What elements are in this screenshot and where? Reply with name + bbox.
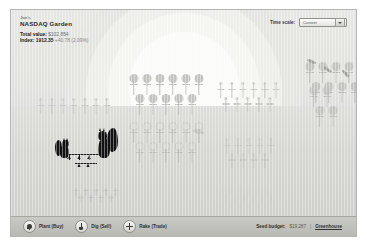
plant-shoot[interactable]: [226, 203, 235, 213]
plant-outline[interactable]: [134, 142, 147, 164]
plant-mature[interactable]: [323, 82, 336, 104]
header: Joe's NASDAQ Garden Total value: $102,85…: [11, 10, 356, 50]
plant-mature[interactable]: [314, 106, 327, 128]
squirrel-left: [55, 138, 73, 158]
plant-mature[interactable]: [349, 82, 357, 104]
plant-shoot[interactable]: [267, 194, 276, 204]
plant-mature[interactable]: [147, 94, 160, 116]
plant-outline[interactable]: [186, 142, 199, 164]
plant-mature[interactable]: [134, 94, 147, 116]
plant-arms: [332, 72, 340, 73]
dig-sell-button[interactable]: Dig (Sell): [75, 220, 111, 233]
plant-arms: [188, 104, 196, 105]
plant-arms: [103, 190, 108, 191]
squirrel-ear-right: [103, 128, 105, 131]
plant-shoot[interactable]: [244, 203, 253, 213]
plant-stem: [220, 85, 221, 98]
plant-mature[interactable]: [186, 94, 199, 116]
rake-icon: [123, 220, 136, 233]
plant-outline[interactable]: [160, 142, 173, 164]
plant-arms: [162, 152, 170, 153]
plant-mature[interactable]: [160, 94, 173, 116]
plant-arms: [261, 89, 268, 90]
squirrel-right: [95, 128, 119, 158]
plant-seedling[interactable]: [221, 97, 232, 114]
plant-arms: [162, 104, 170, 105]
plant-stem: [259, 141, 260, 154]
plant-seedling[interactable]: [243, 97, 254, 114]
plant-arms: [130, 132, 138, 133]
plant-seedling[interactable]: [265, 97, 276, 114]
plant-stem: [237, 141, 238, 154]
plant-stem: [62, 101, 63, 114]
cluster-bottom-sprouts[interactable]: [71, 188, 121, 204]
plant-sprout[interactable]: [76, 195, 86, 204]
chevron-down-icon[interactable]: [335, 18, 345, 27]
plant-arms: [182, 132, 190, 133]
plant-arms: [239, 89, 246, 90]
portfolio-stats: Total value: $102,854 Index: 1912.35 +40…: [20, 32, 348, 44]
seed-budget-value: $19,287: [289, 224, 306, 229]
bird-wing-right: [197, 131, 204, 134]
rake-trade-button[interactable]: Rake (Trade): [123, 220, 167, 233]
plant-arms: [316, 116, 324, 117]
plant-mature[interactable]: [327, 106, 340, 128]
plant-stem: [226, 141, 227, 154]
trellis-cap-5: [86, 164, 90, 167]
plant-arms: [228, 89, 235, 90]
plant-seedling[interactable]: [227, 153, 238, 170]
plant-row: [35, 98, 112, 115]
cluster-right-seedlings[interactable]: [215, 82, 281, 114]
plant-arms: [93, 190, 98, 191]
cluster-center-mature[interactable]: [127, 74, 205, 116]
plant-arms: [103, 105, 110, 106]
cluster-bottom-shoots[interactable]: [217, 186, 276, 213]
plant-sprout[interactable]: [96, 195, 106, 204]
plant-shoot[interactable]: [217, 203, 226, 213]
squirrel-head: [62, 140, 69, 147]
plant-mature[interactable]: [310, 82, 323, 104]
plant-seedling[interactable]: [238, 153, 249, 170]
plant-row: [76, 195, 121, 204]
plant-seedling[interactable]: [232, 97, 243, 114]
plant-stem: [242, 85, 243, 98]
plant-row: [134, 94, 206, 116]
plant-seedling[interactable]: [35, 98, 46, 115]
plant-seedling[interactable]: [260, 153, 271, 170]
plant-stem: [257, 203, 258, 212]
plant-stem: [269, 99, 270, 112]
plant-seedling[interactable]: [68, 98, 79, 115]
plant-seedling[interactable]: [101, 98, 112, 115]
plant-seedling[interactable]: [57, 98, 68, 115]
cluster-right-low[interactable]: [221, 138, 276, 170]
dig-sell-label: Dig (Sell): [91, 224, 111, 229]
plant-arms: [306, 72, 314, 73]
time-scale-value: Current: [303, 20, 317, 25]
plant-stem: [221, 203, 222, 212]
plant-seedling[interactable]: [90, 98, 101, 115]
plant-shoot[interactable]: [235, 203, 244, 213]
plant-outline[interactable]: [173, 142, 186, 164]
index-change: +40.78: [55, 38, 70, 43]
plant-sprout[interactable]: [86, 195, 96, 204]
plant-arms: [256, 103, 263, 104]
plant-arms: [262, 159, 269, 160]
cluster-left-seedlings[interactable]: [35, 98, 112, 115]
plant-arms: [37, 105, 44, 106]
time-scale-select[interactable]: Current: [299, 18, 347, 27]
plant-shoot[interactable]: [253, 203, 262, 213]
plant-seedling[interactable]: [254, 97, 265, 114]
plant-buy-button[interactable]: Plant (Buy): [23, 220, 63, 233]
plant-sprout[interactable]: [106, 195, 116, 204]
plant-stem: [230, 203, 231, 212]
plant-mature[interactable]: [173, 94, 186, 116]
plant-mature[interactable]: [336, 82, 349, 104]
plant-stem: [84, 101, 85, 114]
plant-seedling[interactable]: [46, 98, 57, 115]
greenhouse-link[interactable]: Greenhouse: [315, 224, 342, 229]
plant-row: [227, 153, 277, 170]
bird-icon: [193, 129, 205, 136]
plant-seedling[interactable]: [249, 153, 260, 170]
plant-seedling[interactable]: [79, 98, 90, 115]
plant-outline[interactable]: [147, 142, 160, 164]
